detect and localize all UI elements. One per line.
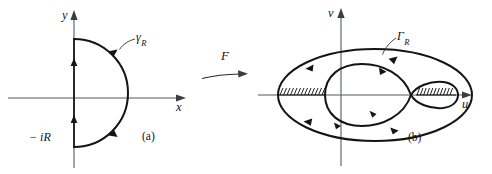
panel-a-point-label: − iR bbox=[29, 130, 51, 145]
panel-a-contour-semicircle bbox=[74, 39, 128, 147]
figure-root: y x γR − iR (a) F v u ΓR (b) bbox=[0, 0, 492, 174]
panel-a-y-axis-label: y bbox=[62, 8, 68, 23]
panel-b-left-branch-cut bbox=[279, 88, 326, 95]
panel-a-contour-label-subscript: R bbox=[141, 38, 146, 48]
panel-b-v-axis-label: v bbox=[328, 6, 334, 21]
panel-a-direction-arrow-segment-lower bbox=[71, 115, 78, 123]
panel-b-contour-label-base: Γ bbox=[397, 29, 404, 43]
panel-b-contour-label-leader bbox=[383, 38, 397, 55]
panel-b-direction-arrow-outer-upper-right bbox=[389, 57, 398, 65]
panel-b-tag: (b) bbox=[408, 131, 421, 143]
panel-b-v-axis bbox=[337, 8, 344, 166]
panel-b-direction-arrow-outer-lower-left bbox=[304, 119, 313, 126]
panel-b-contour-label: ΓR bbox=[397, 29, 409, 45]
panel-a-contour-label-leader bbox=[120, 39, 136, 50]
panel-a-x-axis-label: x bbox=[176, 100, 182, 115]
panel-a-x-axis bbox=[8, 94, 186, 101]
panel-b-direction-arrow-outer-upper-left bbox=[306, 65, 314, 72]
panel-a-tag: (a) bbox=[142, 130, 155, 142]
panel-b-group bbox=[258, 8, 472, 166]
mapping-arrow bbox=[202, 70, 248, 78]
mapping-label: F bbox=[221, 48, 229, 64]
panel-b-u-axis-label: u bbox=[462, 97, 468, 112]
panel-b-direction-arrow-outer-lower-right bbox=[390, 128, 398, 135]
panel-b-direction-arrow-inner-left bbox=[334, 122, 341, 129]
panel-b-contour-label-subscript: R bbox=[404, 37, 409, 47]
panel-b-right-branch-cut bbox=[416, 88, 456, 95]
panel-b-direction-arrow-inner-lower bbox=[370, 111, 377, 118]
figure-canvas bbox=[0, 0, 492, 174]
panel-a-direction-arrow-segment-upper bbox=[71, 58, 78, 66]
panel-a-contour-label: γR bbox=[136, 30, 146, 46]
